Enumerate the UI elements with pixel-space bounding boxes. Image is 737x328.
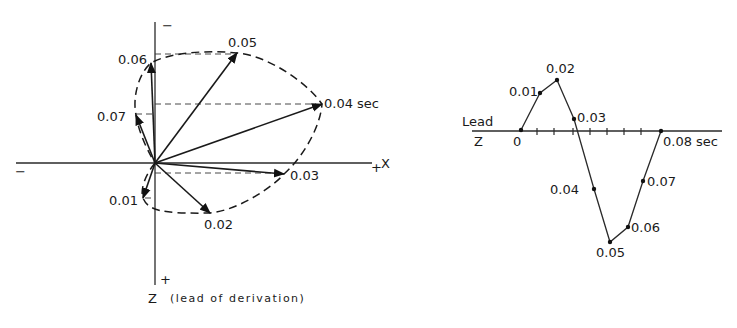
- lead-name: Z: [474, 134, 483, 149]
- point-label-0-07: 0.07: [647, 174, 676, 189]
- qrs-loop: [135, 52, 322, 213]
- vector-loop-diagram: 0.01 0.02 0.03 0.04 sec 0.05 0.06 0.07 −…: [15, 18, 390, 306]
- vector-0-02: [155, 163, 210, 213]
- x-minus-sign: −: [15, 164, 26, 179]
- z-minus-sign: −: [162, 18, 173, 33]
- vector-0-03: [155, 163, 284, 174]
- point-label-0-04: 0.04: [550, 182, 579, 197]
- diagram-canvas: 0.01 0.02 0.03 0.04 sec 0.05 0.06 0.07 −…: [0, 0, 737, 328]
- projection-lines: [136, 54, 316, 198]
- z-axis-caption: (lead of derivation): [170, 292, 305, 305]
- point-label-0-05: 0.05: [596, 245, 625, 260]
- x-axis-label: X: [381, 156, 390, 171]
- point-label-0-03: 0.03: [577, 110, 606, 125]
- lead-z-tracing: Lead Z 0 0.01 0.02 0.03 0.04 0.05 0.06 0…: [462, 61, 722, 260]
- z-plus-sign: +: [160, 272, 171, 287]
- label-0-01: 0.01: [109, 193, 138, 208]
- point-label-0-02: 0.02: [546, 61, 575, 76]
- point-label-0-01: 0.01: [509, 84, 538, 99]
- vector-0-05: [155, 53, 237, 163]
- lead-label: Lead: [462, 114, 493, 129]
- point-label-0-06: 0.06: [631, 220, 660, 235]
- label-0-06: 0.06: [118, 52, 147, 67]
- label-0-07: 0.07: [97, 109, 126, 124]
- point-label-0: 0: [513, 134, 521, 149]
- vector-0-04: [155, 104, 322, 163]
- point-label-0-08: 0.08 sec: [663, 134, 718, 149]
- vector-0-07: [136, 115, 155, 163]
- label-0-04: 0.04 sec: [324, 96, 379, 111]
- lead-z-waveform: [521, 80, 661, 242]
- label-0-03: 0.03: [290, 168, 319, 183]
- z-axis-label: Z: [148, 291, 157, 306]
- label-0-02: 0.02: [204, 217, 233, 232]
- label-0-05: 0.05: [228, 35, 257, 50]
